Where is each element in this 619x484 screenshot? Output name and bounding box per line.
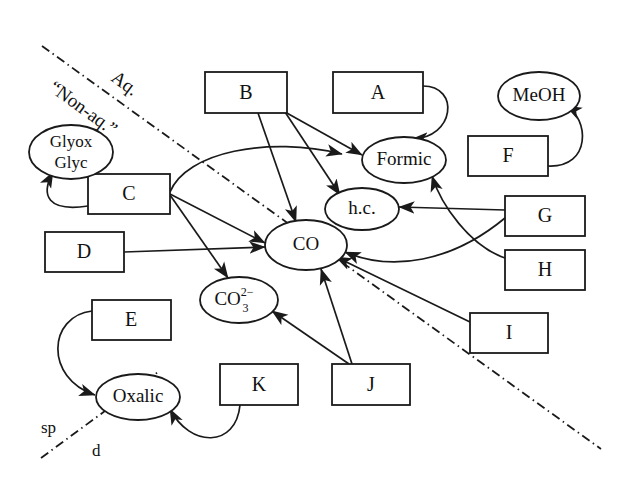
edge-k-to-oxalic [170,405,240,438]
edge-c-to-co3 [170,195,228,278]
co-label: CO [293,233,319,254]
corner-label-sp: sp [41,418,56,437]
edge-e-to-oxalic [58,311,95,395]
ellipse-node-meoh[interactable]: MeOH [498,72,580,120]
box-node-k[interactable]: K [220,364,298,405]
carbonate-label-count: 3 [243,301,249,315]
carbonate-label-charge: 2− [241,285,254,299]
box-c-label: C [122,182,135,204]
edge-i-to-co [336,257,470,322]
box-node-i[interactable]: I [470,313,548,353]
ellipse-node-glyox-glyc[interactable]: Glyox Glyc [29,125,113,179]
box-d-label: D [77,240,91,262]
box-node-a[interactable]: A [333,72,423,113]
edge-j-to-co [321,269,352,364]
meoh-label: MeOH [513,84,566,105]
box-i-label: I [506,321,513,343]
box-b-label: B [239,81,252,103]
edge-c-to-co [170,194,265,243]
corner-label-d: d [92,441,101,460]
box-g-label: G [538,204,552,226]
box-node-d[interactable]: D [45,232,124,272]
box-k-label: K [252,373,267,395]
edge-b-to-hc [285,112,340,195]
glyox-label: Glyox [50,132,93,151]
edge-g-to-hc [399,207,505,210]
formic-label: Formic [377,148,432,169]
ellipse-node-hc[interactable]: h.c. [325,188,399,230]
carbonate-label-base: CO [214,288,240,309]
reaction-network-diagram: Aq. “Non-aq.” sp d [0,0,619,484]
box-h-label: H [538,258,552,280]
edge-c-to-formic [170,147,342,192]
box-node-g[interactable]: G [505,196,585,236]
box-j-label: J [367,373,375,395]
edge-d-to-co [124,247,265,252]
box-node-j[interactable]: J [332,364,410,405]
box-a-label: A [371,81,386,103]
edge-b-to-formic [285,112,362,155]
oxalic-label: Oxalic [113,385,164,406]
box-node-c[interactable]: C [88,174,170,214]
box-e-label: E [125,308,137,330]
ellipse-node-carbonate[interactable]: CO2−3 [200,277,278,323]
ellipse-node-co[interactable]: CO [265,220,347,270]
box-node-f[interactable]: F [468,136,548,176]
box-node-b[interactable]: B [205,72,287,113]
box-node-e[interactable]: E [92,300,171,340]
box-node-h[interactable]: H [505,250,585,290]
glyc-label: Glyc [54,153,88,172]
ellipse-node-oxalic[interactable]: Oxalic [96,374,180,420]
edge-h-to-formic [432,176,505,258]
phase-label-aqueous: Aq. [108,66,143,99]
diagram-canvas: Aq. “Non-aq.” sp d [0,0,619,484]
box-f-label: F [502,144,513,166]
ellipse-node-formic[interactable]: Formic [362,137,446,183]
hc-label: h.c. [348,197,375,218]
